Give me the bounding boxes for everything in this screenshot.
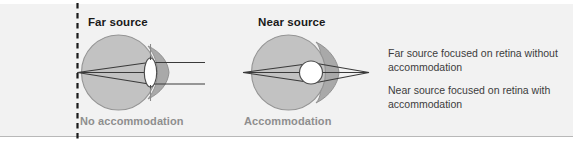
far-source-title: Far source (88, 16, 148, 28)
lens-round-icon (300, 61, 323, 84)
lens-flat-icon (144, 58, 156, 87)
note-far-source: Far source focused on retina without acc… (388, 47, 570, 74)
near-source-title: Near source (258, 16, 326, 28)
near-source-caption: Accommodation (244, 115, 331, 127)
note-near-source: Near source focused on retina with accom… (388, 84, 570, 111)
far-source-caption: No accommodation (80, 115, 184, 127)
accommodation-diagram: Far source Near source No accommodation … (0, 0, 573, 148)
far-source-eye-illustration (78, 35, 206, 110)
near-source-eye-illustration (243, 35, 369, 110)
